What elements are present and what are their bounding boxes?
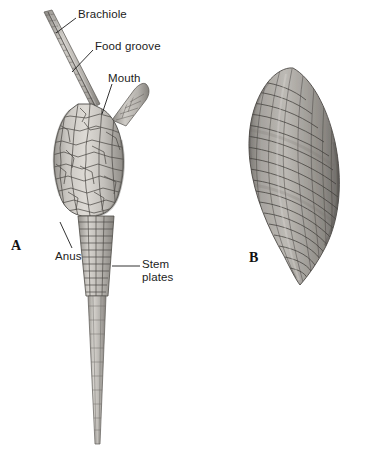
figure-root: Brachiole Food groove Mouth Anus Stempla… <box>0 0 373 460</box>
food-groove-line <box>48 12 95 106</box>
brachiole-left-arm <box>42 10 100 108</box>
brachiole-right-arm <box>112 83 149 126</box>
label-stem-plates-line1: Stem <box>142 258 169 270</box>
specimen-b-theca <box>246 68 339 285</box>
label-mouth: Mouth <box>108 72 140 85</box>
leader-anus <box>60 222 72 248</box>
label-food-groove: Food groove <box>95 40 161 53</box>
panel-letter-b: B <box>249 250 258 266</box>
label-stem-plates: Stemplates <box>142 258 173 283</box>
label-anus: Anus <box>55 250 82 263</box>
figure-illustration <box>0 0 373 460</box>
stem-columnals <box>76 216 116 444</box>
label-brachiole: Brachiole <box>78 8 127 21</box>
label-stem-plates-line2: plates <box>142 271 173 283</box>
panel-letter-a: A <box>11 238 21 254</box>
leader-mouth <box>102 84 112 114</box>
